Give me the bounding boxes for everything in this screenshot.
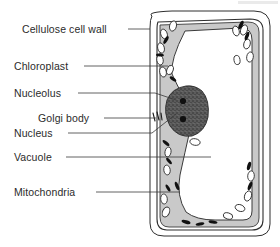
label-vacuole: Vacuole [14,151,52,163]
label-nucleolus: Nucleolus [14,87,61,99]
nucleolus-dot-0 [180,98,186,104]
label-mitochondria: Mitochondria [14,186,75,198]
plant-cell-diagram: Cellulose cell wallChloroplastNucleolusG… [0,0,280,247]
label-cellulose-cell-wall: Cellulose cell wall [22,23,107,35]
nucleus-shape [166,86,209,136]
label-chloroplast: Chloroplast [14,60,68,72]
nucleolus-dot-1 [180,116,186,122]
plant-cell-diagram-page: Cellulose cell wallChloroplastNucleolusG… [0,0,280,247]
scan-artifact [238,1,278,4]
label-nucleus: Nucleus [14,127,53,139]
label-golgi-body: Golgi body [38,112,90,124]
label-group: Cellulose cell wallChloroplastNucleolusG… [14,23,107,198]
